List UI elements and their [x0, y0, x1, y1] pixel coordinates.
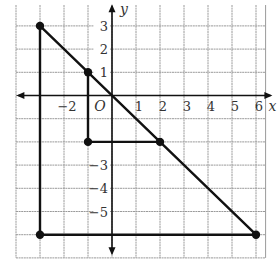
y-tick-label: −5 — [89, 205, 108, 220]
data-point — [84, 138, 92, 146]
x-tick-label: 6 — [255, 99, 263, 114]
x-tick-label: −2 — [57, 99, 76, 114]
x-axis-label: x — [268, 98, 276, 114]
x-tick-label: 5 — [231, 99, 239, 114]
data-point — [36, 231, 44, 239]
origin-label: O — [94, 98, 106, 114]
x-axis-left-arrow-icon — [16, 92, 24, 99]
x-tick-label: 4 — [207, 99, 215, 114]
x-tick-label: 2 — [159, 99, 167, 114]
data-point — [252, 231, 260, 239]
y-axis-up-arrow-icon — [109, 4, 116, 12]
data-point — [84, 68, 92, 76]
y-tick-label: −3 — [89, 158, 108, 173]
y-tick-label: 1 — [100, 65, 108, 80]
data-point — [156, 138, 164, 146]
line-segment — [40, 26, 256, 235]
y-axis-label: y — [119, 1, 129, 17]
x-tick-label: 1 — [135, 99, 143, 114]
y-tick-label: −4 — [89, 181, 108, 196]
y-tick-label: 3 — [100, 19, 108, 34]
y-tick-label: 2 — [100, 42, 108, 57]
coordinate-plane: −2123456321−3−4−5Oxy — [0, 0, 279, 260]
y-axis-down-arrow-icon — [109, 247, 116, 255]
x-tick-label: 3 — [183, 99, 191, 114]
data-point — [36, 22, 44, 30]
